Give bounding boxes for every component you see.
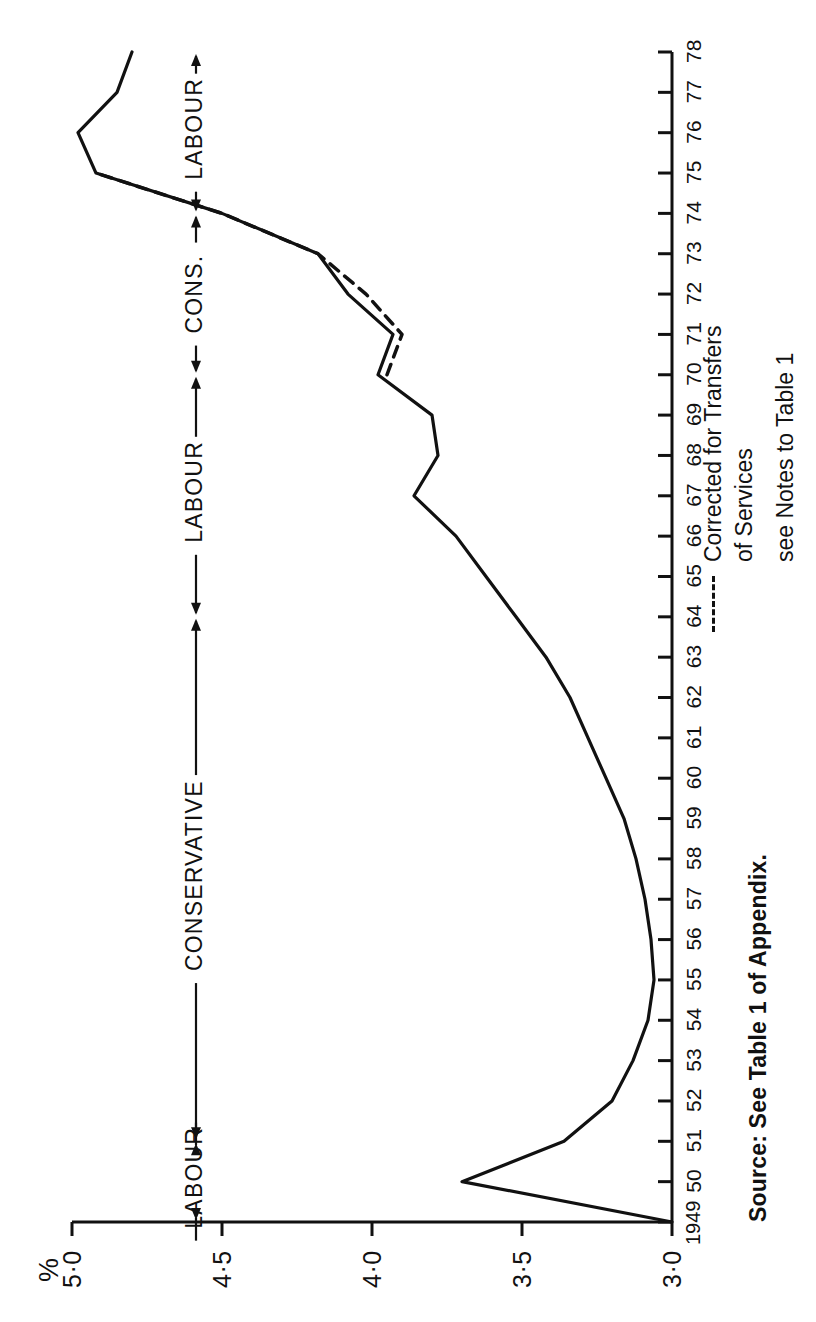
percent-axis-unit-label: % [34, 1258, 65, 1282]
x-tick-label: 54 [682, 1008, 706, 1031]
x-tick-label: 63 [682, 645, 706, 668]
x-tick-label: 55 [682, 968, 706, 991]
legend-text-line-1: Corrected for Transfers [700, 326, 727, 562]
x-tick-label: 50 [682, 1169, 706, 1192]
x-tick-label: 73 [682, 241, 706, 264]
x-tick-label: 62 [682, 685, 706, 708]
x-axis-ticks [658, 52, 672, 1222]
x-tick-label: 59 [682, 806, 706, 829]
x-tick-label: 60 [682, 766, 706, 789]
x-tick-label: 58 [682, 847, 706, 870]
x-tick-label: 77 [682, 80, 706, 103]
x-tick-label: 65 [682, 564, 706, 587]
x-tick-label: 76 [682, 120, 706, 143]
x-tick-label: 64 [682, 604, 706, 627]
x-tick-label: 1949 [682, 1201, 705, 1246]
x-tick-label: 78 [682, 40, 706, 63]
series-line-solid [78, 52, 672, 1222]
x-tick-label: 51 [682, 1129, 706, 1152]
arrow-head-right-icon [191, 619, 201, 631]
period-label-labour: LABOUR [181, 1127, 208, 1229]
arrow-head-right-icon [191, 54, 201, 66]
y-tick-label: 4·5 [208, 1250, 237, 1288]
data-series-group [78, 52, 672, 1222]
arrow-head-right-icon [191, 215, 201, 227]
arrow-head-left-icon [191, 603, 201, 615]
y-tick-label: 3·5 [508, 1250, 537, 1288]
x-tick-label: 75 [682, 161, 706, 184]
rotated-figure: 3·03·54·04·55·0 194950515253545556575859… [0, 0, 816, 1322]
series-line-dashed [96, 173, 402, 375]
y-tick-label: 4·0 [358, 1250, 387, 1288]
period-label-labour: LABOUR [181, 78, 208, 180]
y-axis-ticks [72, 1222, 672, 1236]
period-bracket-group [191, 54, 201, 1241]
y-tick-label: 3·0 [658, 1250, 687, 1288]
period-label-cons: CONS. [181, 255, 208, 334]
period-label-labour: LABOUR [181, 441, 208, 543]
legend-text-line-3: see Notes to Table 1 [772, 353, 799, 562]
axis-lines [72, 52, 672, 1222]
legend-text-line-2: of Services [731, 448, 758, 562]
x-tick-label: 74 [682, 201, 706, 224]
period-label-conservative: CONSERVATIVE [181, 780, 208, 971]
x-tick-label: 52 [682, 1089, 706, 1112]
source-note: Source: See Table 1 of Appendix. [745, 854, 772, 1222]
dashed-line-sample [712, 576, 715, 632]
x-tick-label: 53 [682, 1048, 706, 1071]
arrow-head-left-icon [191, 361, 201, 373]
chart-plot-area: 3·03·54·04·55·0 194950515253545556575859… [0, 0, 816, 1322]
x-tick-label: 61 [682, 726, 706, 749]
x-tick-label: 57 [682, 887, 706, 910]
arrow-head-right-icon [191, 377, 201, 389]
x-tick-label: 72 [682, 282, 706, 305]
x-tick-label: 56 [682, 927, 706, 950]
